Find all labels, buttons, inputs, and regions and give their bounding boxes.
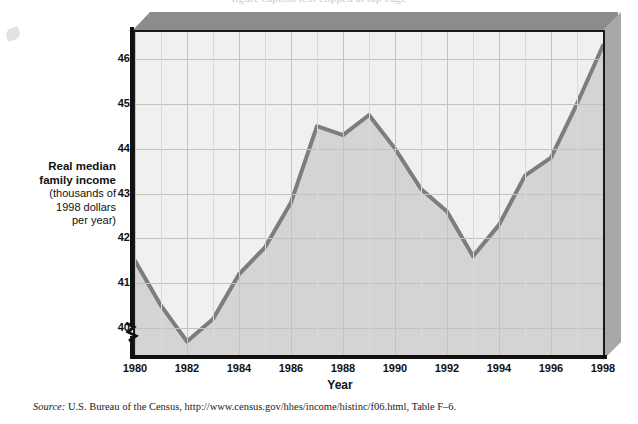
y-axis-title-line-5: per year) [8, 214, 116, 228]
block-top-face [133, 12, 618, 30]
x-tick-label: 1990 [370, 362, 420, 374]
y-tick-label: 44 [94, 142, 130, 154]
y-tick-label: 45 [94, 97, 130, 109]
gridline-vertical [525, 32, 526, 355]
source-label: Source: [33, 401, 65, 412]
x-tick-label: 1992 [422, 362, 472, 374]
x-tick-label: 1994 [474, 362, 524, 374]
x-tick-label: 1984 [214, 362, 264, 374]
x-tick-label: 1986 [266, 362, 316, 374]
x-axis-title-text: Year [327, 378, 352, 392]
x-axis-tick-labels: 1980198219841986198819901992199419961998 [0, 362, 638, 378]
gridline-vertical [265, 32, 266, 355]
gridline-vertical [421, 32, 422, 355]
gridline-vertical [239, 32, 240, 355]
gridline-vertical [317, 32, 318, 355]
x-tick-label: 1988 [318, 362, 368, 374]
figure-root: figure caption text clipped at top edge … [0, 0, 638, 424]
gridline-vertical [213, 32, 214, 355]
y-axis-title-line-3: (thousands of [8, 187, 116, 201]
gridline-vertical [473, 32, 474, 355]
source-tail: , Table F–6. [406, 401, 456, 412]
gridline-vertical [369, 32, 370, 355]
x-tick-label: 1980 [110, 362, 160, 374]
source-note: Source: U.S. Bureau of the Census, http:… [33, 401, 456, 412]
y-tick-label: 41 [94, 276, 130, 288]
x-axis-line [130, 355, 607, 359]
y-axis-title: Real median family income (thousands of … [8, 160, 116, 228]
block-right-face [603, 12, 621, 360]
gridline-vertical [187, 32, 188, 355]
y-axis-line [130, 27, 134, 327]
y-axis-title-line-2: family income [8, 174, 116, 188]
y-tick-label: 46 [94, 52, 130, 64]
gridline-vertical [135, 32, 136, 355]
y-tick-label: 40 [94, 321, 130, 333]
gridline-vertical [577, 32, 578, 355]
y-axis-title-line-4: 1998 dollars [8, 201, 116, 215]
gridline-vertical [291, 32, 292, 355]
page-smudge-artifact [4, 26, 21, 42]
gridline-vertical [161, 32, 162, 355]
x-tick-label: 1996 [526, 362, 576, 374]
gridline-vertical [499, 32, 500, 355]
gridline-vertical [395, 32, 396, 355]
source-url[interactable]: http://www.census.gov/hhes/income/histin… [185, 401, 407, 412]
gridline-vertical [447, 32, 448, 355]
plot-area [135, 32, 603, 355]
y-axis-title-line-1: Real median [8, 160, 116, 174]
chart-3d-block [118, 12, 618, 362]
x-tick-label: 1998 [578, 362, 628, 374]
x-tick-label: 1982 [162, 362, 212, 374]
plot-frame [133, 30, 605, 357]
gridline-vertical [551, 32, 552, 355]
y-tick-label: 42 [94, 231, 130, 243]
x-axis-title: Year [0, 378, 638, 392]
gridline-vertical [343, 32, 344, 355]
source-text: U.S. Bureau of the Census, [65, 401, 184, 412]
